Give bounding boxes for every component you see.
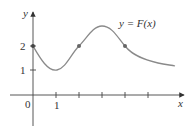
y-tick-label-1: 1	[20, 64, 26, 76]
curve-F	[33, 26, 175, 70]
function-graph: y x 0 1 1 2 y = F(x)	[0, 0, 193, 134]
x-tick-label-0: 0	[25, 98, 31, 110]
y-tick-label-2: 2	[20, 40, 26, 52]
x-tick-label-1: 1	[54, 99, 60, 111]
x-axis-label: x	[177, 97, 183, 109]
point-2-2	[77, 44, 81, 48]
curve-label: y = F(x)	[118, 17, 156, 30]
point-4-2	[123, 44, 127, 48]
point-0-2	[31, 44, 35, 48]
y-axis-label: y	[22, 7, 28, 19]
